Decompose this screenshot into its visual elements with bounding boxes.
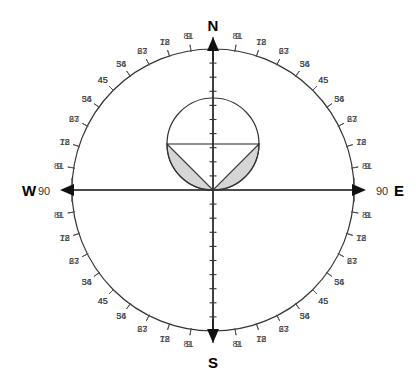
cardinal-degree-west: 90 — [38, 185, 50, 197]
outer-tick-mark — [127, 303, 131, 309]
outer-tick-label: 72 — [160, 334, 170, 344]
outer-tick-mark — [109, 86, 114, 91]
outer-tick-label: 63 — [137, 46, 147, 56]
outer-tick-label: 81 — [232, 31, 242, 41]
stereonet-figure: 9182736455463728191827364554637281918273… — [0, 0, 416, 389]
outer-tick-mark — [312, 86, 317, 91]
outer-tick-label: 27 — [69, 256, 79, 266]
outer-tick-label: 36 — [82, 277, 92, 287]
outer-tick-label: 63 — [279, 46, 289, 56]
outer-tick-label: 36 — [300, 311, 310, 321]
outer-tick-mark — [109, 289, 114, 294]
outer-tick-mark — [312, 289, 317, 294]
outer-tick-label: 72 — [356, 233, 366, 243]
outer-tick-mark — [326, 272, 332, 276]
lune-left-shaded-region — [167, 144, 213, 190]
outer-tick-label: 54 — [116, 311, 126, 321]
outer-tick-mark — [295, 71, 299, 77]
outer-tick-label: 81 — [184, 339, 194, 349]
outer-tick-label: 81 — [184, 31, 194, 41]
outer-tick-label: 81 — [362, 210, 372, 220]
outer-tick-label: 45 — [98, 296, 108, 306]
outer-tick-label: 27 — [279, 324, 289, 334]
outer-tick-label: 72 — [160, 37, 170, 47]
cardinal-degree-east: 90 — [376, 185, 388, 197]
north-arrowhead — [207, 37, 219, 51]
outer-tick-label: 63 — [137, 324, 147, 334]
cardinal-label-south: S — [208, 354, 218, 371]
outer-tick-label: 36 — [82, 94, 92, 104]
west-arrowhead — [60, 184, 74, 196]
outer-tick-label: 45 — [318, 296, 328, 306]
lune-right-shaded-region — [213, 144, 259, 190]
outer-tick-label: 45 — [98, 75, 108, 85]
stereonet-canvas: 9182736455463728191827364554637281918273… — [0, 0, 416, 389]
outer-tick-label: 72 — [256, 37, 266, 47]
outer-tick-label: 54 — [116, 59, 126, 69]
outer-tick-label: 45 — [318, 75, 328, 85]
outer-tick-mark — [94, 272, 100, 276]
outer-tick-mark — [127, 71, 131, 77]
outer-tick-label: 18 — [256, 334, 266, 344]
outer-tick-mark — [295, 303, 299, 309]
south-arrowhead — [207, 329, 219, 343]
outer-tick-label: 18 — [356, 137, 366, 147]
cardinal-label-east: E — [394, 182, 404, 199]
east-arrowhead — [352, 184, 366, 196]
outer-tick-label: 54 — [334, 277, 344, 287]
cardinal-label-north: N — [208, 17, 219, 34]
outer-tick-mark — [326, 104, 332, 108]
outer-tick-label: 9 — [56, 161, 61, 171]
outer-tick-label: 27 — [347, 114, 357, 124]
outer-tick-label: 18 — [60, 233, 70, 243]
outer-tick-label: 36 — [334, 94, 344, 104]
outer-tick-label: 9 — [56, 210, 61, 220]
outer-tick-label: 9 — [235, 339, 240, 349]
outer-tick-mark — [94, 104, 100, 108]
outer-tick-label: 63 — [347, 256, 357, 266]
outer-tick-label: 27 — [69, 114, 79, 124]
outer-tick-label: 18 — [60, 137, 70, 147]
cardinal-label-west: W — [22, 182, 37, 199]
outer-tick-label: 9 — [365, 161, 370, 171]
outer-tick-label: 54 — [300, 59, 310, 69]
